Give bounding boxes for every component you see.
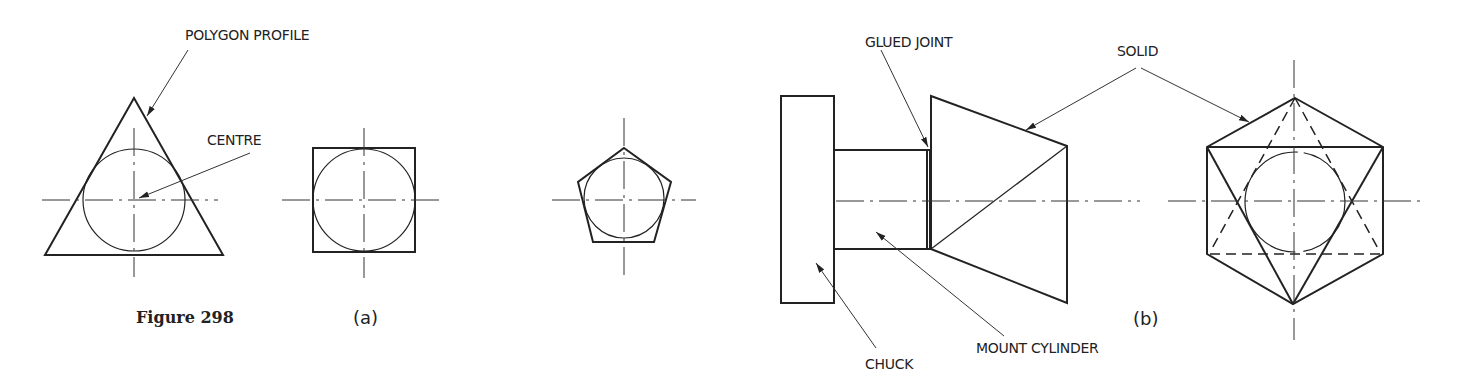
technical-drawing: POLYGON PROFILE CENTRE Figure 298 (a) GL… (0, 0, 1459, 377)
pentagon-profile-view (552, 118, 696, 276)
chuck-body (781, 96, 834, 303)
polygon-profile-leader (147, 50, 188, 116)
glued-joint-leader (881, 50, 928, 147)
panel-a-label: (a) (353, 307, 378, 328)
hexagon-end-view (1168, 60, 1425, 340)
solid-label: SOLID (1117, 43, 1158, 59)
polygon-profile-label: POLYGON PROFILE (185, 27, 309, 43)
triangle-profile-view (42, 98, 223, 277)
mount-cylinder-body (834, 150, 930, 249)
centre-label: CENTRE (207, 132, 261, 148)
mount-cylinder-leader (876, 232, 1004, 336)
mount-cylinder-label: MOUNT CYLINDER (976, 340, 1099, 356)
glued-joint-label: GLUED JOINT (865, 34, 953, 50)
cone-solid-side-view (931, 96, 1067, 303)
panel-b-label: (b) (1133, 308, 1158, 329)
square-profile-view (282, 128, 444, 278)
chuck-label: CHUCK (865, 356, 914, 372)
centre-leader (139, 153, 250, 198)
solid-leader-left (1026, 68, 1136, 130)
solid-leader-right (1141, 68, 1249, 122)
figure-caption: Figure 298 (136, 308, 234, 327)
chuck-leader (816, 263, 876, 348)
